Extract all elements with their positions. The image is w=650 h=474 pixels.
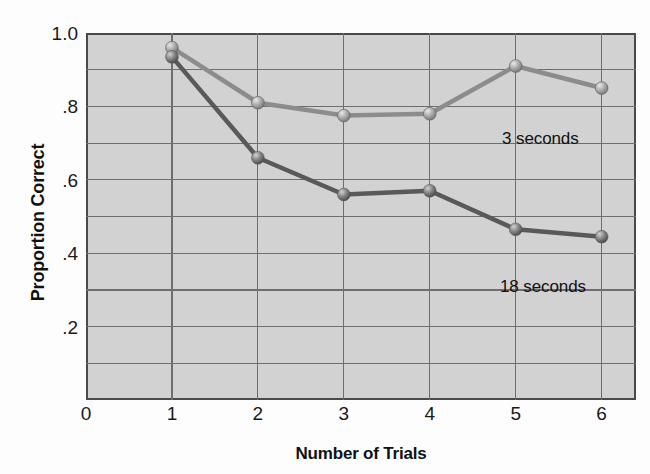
y-tick-label: .4 (14, 244, 78, 263)
gridlines (86, 33, 636, 400)
y-tick-label: .2 (14, 317, 78, 336)
series-label-3-seconds: 3 seconds (502, 129, 579, 149)
x-tick-label: 4 (410, 404, 450, 423)
x-tick-label: 6 (582, 404, 622, 423)
plot-area: 3 seconds 18 seconds (86, 33, 636, 400)
series-label-18-seconds: 18 seconds (500, 277, 586, 297)
x-tick-label: 3 (324, 404, 364, 423)
y-tick-label: 1.0 (14, 24, 78, 43)
x-tick-label: 2 (238, 404, 278, 423)
y-tick-label: .6 (14, 170, 78, 189)
x-tick-label: 5 (496, 404, 536, 423)
x-tick-label: 0 (66, 404, 106, 423)
x-tick-label: 1 (152, 404, 192, 423)
plot-canvas (86, 33, 636, 400)
chart-figure: Proportion Correct Number of Trials 1.0 … (0, 0, 650, 474)
y-tick-label: .8 (14, 97, 78, 116)
y-axis-title: Proportion Correct (28, 123, 49, 323)
x-axis-title: Number of Trials (86, 444, 636, 464)
